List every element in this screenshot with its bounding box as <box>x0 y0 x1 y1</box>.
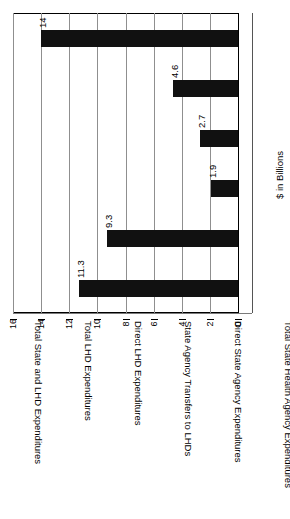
category-label: Direct LHD Expenditures <box>133 321 144 426</box>
category-label: Direct State Agency Expenditures <box>233 321 244 463</box>
value-axis-line <box>252 13 253 313</box>
bar-value-label: 9.3 <box>103 214 114 227</box>
value-tick-dash <box>123 319 130 320</box>
bar <box>211 180 238 197</box>
bar <box>41 30 238 47</box>
value-tick-dash <box>179 319 186 320</box>
gridline <box>41 13 42 313</box>
bar <box>200 130 238 147</box>
bar-value-label: 14 <box>37 17 48 28</box>
value-axis-title: $ in Billions <box>274 151 285 199</box>
category-label: Total LHD Expenditures <box>83 321 94 421</box>
value-tick-label: 2 <box>205 321 215 326</box>
value-tick-label: 6 <box>149 321 159 326</box>
bar-value-label: 2.7 <box>196 114 207 127</box>
category-label: State Agency Transfers to LHDs <box>183 321 194 456</box>
gridline <box>126 13 127 313</box>
gridline <box>13 13 14 313</box>
gridline <box>154 13 155 313</box>
value-tick-label: 8 <box>121 321 131 326</box>
bar <box>107 230 238 247</box>
value-tick-dash <box>235 319 242 320</box>
gridline <box>69 13 70 313</box>
bar <box>79 280 238 297</box>
gridline <box>238 13 239 313</box>
category-label: Total State Health Agency Expenditures <box>283 321 290 488</box>
value-tick-label: 12 <box>64 319 74 329</box>
bar-value-label: 4.6 <box>169 64 180 77</box>
value-tick-dash <box>151 319 158 320</box>
category-label: Total State and LHD Expenditures <box>33 321 44 464</box>
gridline <box>97 13 98 313</box>
value-tick-label: 16 <box>8 319 18 329</box>
bar-value-label: 11.3 <box>75 260 86 278</box>
value-tick-dash <box>207 319 214 320</box>
category-axis-line <box>13 313 252 314</box>
bar-value-label: 1.9 <box>207 164 218 177</box>
gridline <box>210 13 211 313</box>
gridline <box>182 13 183 313</box>
bar <box>173 80 238 97</box>
